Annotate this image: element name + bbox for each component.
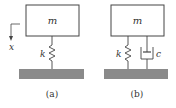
damper-icon xyxy=(141,36,153,69)
displacement-arrow-icon xyxy=(9,24,20,41)
axis-label-x: x xyxy=(9,42,14,52)
spring-icon-a xyxy=(49,36,55,69)
ground-b xyxy=(104,69,168,79)
ground-a xyxy=(19,69,84,79)
spring-icon-b xyxy=(125,36,131,69)
damper-label: c xyxy=(156,49,161,59)
spring-label-b: k xyxy=(116,49,121,59)
mass-label-a: m xyxy=(48,15,57,26)
mass-label-b: m xyxy=(133,15,142,26)
panel-b: m k c (b) xyxy=(104,5,168,99)
caption-a: (a) xyxy=(46,89,58,99)
mass-spring-diagram: m x k (a) m k c (b) xyxy=(0,0,176,108)
spring-label-a: k xyxy=(40,49,45,59)
caption-b: (b) xyxy=(131,89,144,99)
panel-a: m x k (a) xyxy=(9,5,84,99)
